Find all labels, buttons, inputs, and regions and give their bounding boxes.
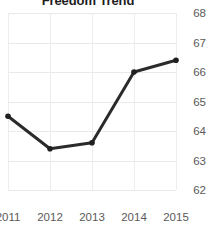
y-tick-label-62: 62: [180, 184, 206, 196]
data-series-freedom-trend: [8, 13, 176, 190]
y-tick-label-67: 67: [180, 37, 206, 49]
plot-area: [8, 13, 176, 190]
y-axis: 62636465666768: [178, 0, 206, 200]
chart-title: Freedom Trend: [0, 0, 176, 8]
series-line: [8, 60, 176, 149]
x-tick-label-2011: 2011: [0, 211, 20, 223]
line-chart: Freedom Trend 62636465666768 20112012201…: [0, 0, 208, 235]
y-tick-label-63: 63: [180, 155, 206, 167]
gridline-y-62: [8, 190, 176, 191]
data-point-2013: [89, 140, 95, 146]
y-tick-label-65: 65: [180, 96, 206, 108]
x-tick-label-2015: 2015: [163, 211, 189, 223]
y-tick-label-66: 66: [180, 66, 206, 78]
x-axis: 20112012201320142015: [0, 211, 176, 227]
y-tick-label-64: 64: [180, 125, 206, 137]
data-point-2014: [131, 69, 137, 75]
y-tick-label-68: 68: [180, 7, 206, 19]
gridline-x-2015: [176, 13, 177, 190]
x-tick-label-2012: 2012: [37, 211, 63, 223]
x-tick-label-2014: 2014: [121, 211, 147, 223]
x-tick-label-2013: 2013: [79, 211, 105, 223]
data-point-2011: [5, 113, 11, 119]
data-point-2012: [47, 146, 53, 152]
